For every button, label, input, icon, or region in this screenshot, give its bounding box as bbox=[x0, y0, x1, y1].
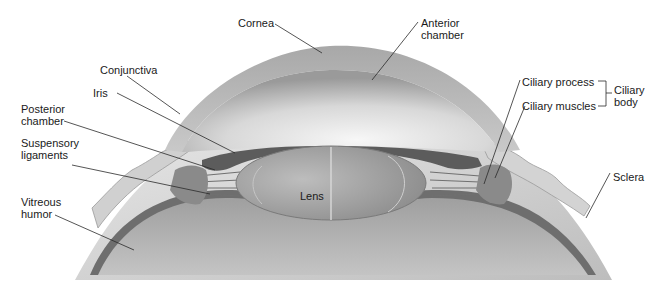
label-ciliary-body: Ciliary body bbox=[614, 84, 645, 108]
label-posterior-chamber-line2: chamber bbox=[21, 115, 65, 127]
label-anterior-chamber: Anterior chamber bbox=[421, 17, 464, 41]
label-cornea: Cornea bbox=[238, 17, 274, 29]
eye-anatomy-diagram: Cornea Anterior chamber Conjunctiva Iris… bbox=[0, 0, 667, 283]
label-sclera: Sclera bbox=[613, 171, 644, 183]
label-anterior-chamber-line2: chamber bbox=[421, 29, 464, 41]
label-suspensory-ligaments: Suspensory ligaments bbox=[21, 137, 79, 161]
label-ciliary-body-line2: body bbox=[614, 96, 645, 108]
label-conjunctiva: Conjunctiva bbox=[100, 64, 157, 76]
label-suspensory-ligaments-line1: Suspensory bbox=[21, 137, 79, 149]
label-vitreous-humor-line1: Vitreous bbox=[21, 196, 61, 208]
label-posterior-chamber: Posterior chamber bbox=[21, 103, 65, 127]
label-vitreous-humor-line2: humor bbox=[21, 208, 61, 220]
label-lens: Lens bbox=[300, 190, 324, 202]
label-suspensory-ligaments-line2: ligaments bbox=[21, 149, 79, 161]
label-iris: Iris bbox=[93, 87, 108, 99]
label-ciliary-body-line1: Ciliary bbox=[614, 84, 645, 96]
eye-illustration bbox=[0, 0, 667, 283]
label-ciliary-muscles: Ciliary muscles bbox=[522, 100, 596, 112]
label-anterior-chamber-line1: Anterior bbox=[421, 17, 464, 29]
label-posterior-chamber-line1: Posterior bbox=[21, 103, 65, 115]
label-vitreous-humor: Vitreous humor bbox=[21, 196, 61, 220]
label-ciliary-process: Ciliary process bbox=[522, 76, 594, 88]
